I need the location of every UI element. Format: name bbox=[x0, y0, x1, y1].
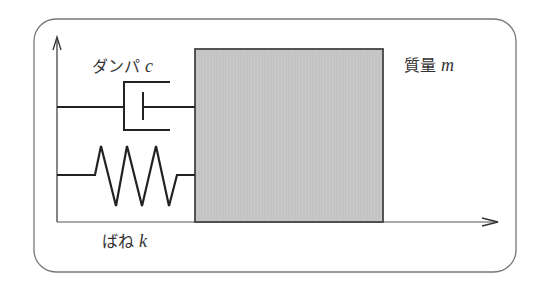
damper-symbol: c bbox=[145, 56, 153, 76]
spring-symbol: k bbox=[139, 231, 147, 251]
damper-label-text: ダンパ bbox=[92, 57, 140, 76]
diagram-canvas bbox=[0, 0, 543, 286]
damper bbox=[57, 82, 195, 130]
mass-label: 質量 m bbox=[404, 52, 454, 76]
damper-label: ダンパ c bbox=[92, 53, 153, 77]
spring-label-text: ばね bbox=[102, 232, 134, 251]
spring bbox=[57, 146, 195, 206]
mass-symbol: m bbox=[441, 55, 454, 75]
mass-block bbox=[195, 49, 383, 222]
spring-label: ばね k bbox=[102, 228, 147, 252]
mass-label-text: 質量 bbox=[404, 56, 436, 75]
